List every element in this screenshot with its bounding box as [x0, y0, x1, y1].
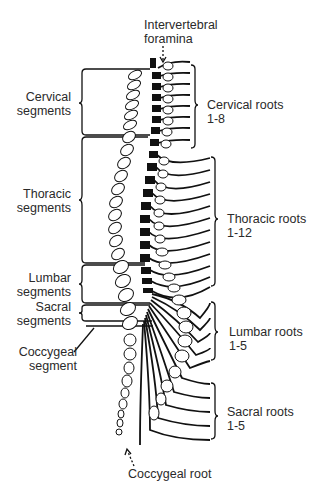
label-sacral-segments: Sacral segments	[17, 300, 71, 328]
nerve-roots	[140, 62, 210, 445]
label-lumbar-segments: Lumbar segments	[17, 271, 71, 299]
label-cervical-roots: Cervical roots 1-8	[207, 98, 283, 126]
label-sacral-roots: Sacral roots 1-5	[227, 405, 294, 433]
label-thoracic-segments: Thoracic segments	[17, 187, 71, 215]
label-intervertebral-foramina: Intervertebral foramina	[144, 18, 218, 46]
label-cervical-segments: Cervical segments	[17, 90, 71, 118]
label-coccygeal-segment: Coccygeal segment	[19, 345, 77, 373]
label-thoracic-roots: Thoracic roots 1-12	[227, 212, 306, 240]
label-coccygeal-root: Coccygeal root	[128, 467, 211, 481]
vertebrae	[106, 68, 143, 435]
label-lumbar-roots: Lumbar roots 1-5	[229, 325, 303, 353]
ganglia	[149, 62, 193, 420]
